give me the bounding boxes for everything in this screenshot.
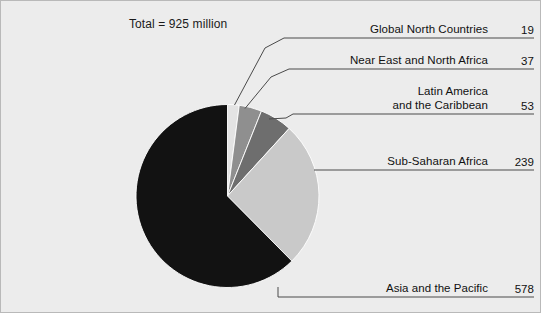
callout-value-asia-pacific: 578 [504,283,534,295]
callout-label-global-north: Global North Countries [370,22,488,36]
callout-value-global-north: 19 [504,24,534,36]
callout-value-latin-america: 53 [504,100,534,112]
callout-label-line1: Sub-Saharan Africa [387,155,488,167]
callout-asia-pacific: Asia and the Pacific 578 [331,268,534,295]
callout-label-line1: Global North Countries [370,23,488,35]
callout-label-line2: and the Caribbean [393,98,488,112]
callout-label-near-east: Near East and North Africa [350,53,488,67]
pie-chart-figure: Total = 925 million Global North Countri… [0,0,541,313]
callout-latin-america: Latin America and the Caribbean 53 [331,71,534,112]
callout-near-east: Near East and North Africa 37 [331,40,534,67]
callout-label-sub-saharan: Sub-Saharan Africa [387,154,488,168]
callout-label-asia-pacific: Asia and the Pacific [386,281,488,295]
callout-label-line1: Latin America [418,85,488,97]
callout-label-latin-america: Latin America and the Caribbean [393,84,488,112]
callout-sub-saharan: Sub-Saharan Africa 239 [331,141,534,168]
callout-label-line1: Near East and North Africa [350,54,488,66]
callout-value-near-east: 37 [504,55,534,67]
callout-global-north: Global North Countries 19 [331,9,534,36]
callout-label-line1: Asia and the Pacific [386,282,488,294]
pie-slices [136,105,319,288]
callout-value-sub-saharan: 239 [504,156,534,168]
leader-line-latin-america [269,114,534,119]
